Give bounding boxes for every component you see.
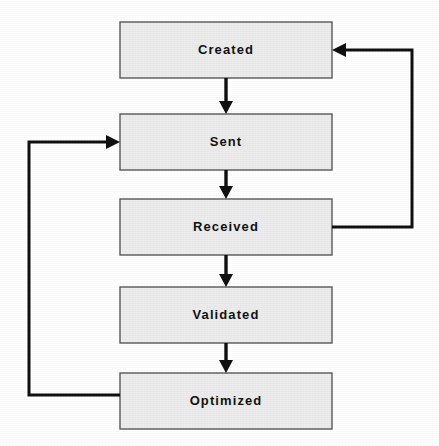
edge-received-to-validated-arrowhead — [219, 274, 233, 287]
edge-validated-to-optimized — [219, 343, 233, 373]
node-received[interactable]: Received — [120, 199, 332, 255]
node-created-label: Created — [198, 42, 254, 57]
edge-validated-to-optimized-arrowhead — [219, 360, 233, 373]
node-validated[interactable]: Validated — [120, 287, 332, 343]
flow-diagram-svg: Created Sent Received Validated Optimize… — [0, 0, 439, 446]
node-sent[interactable]: Sent — [120, 114, 332, 170]
node-optimized-label: Optimized — [190, 393, 263, 408]
node-validated-label: Validated — [193, 307, 260, 322]
edge-created-to-sent — [219, 78, 233, 114]
edge-created-to-sent-arrowhead — [219, 101, 233, 114]
edge-optimized-to-sent-line — [29, 142, 120, 395]
node-received-label: Received — [193, 219, 259, 234]
node-optimized[interactable]: Optimized — [120, 373, 332, 429]
edge-received-to-created-line — [332, 50, 412, 227]
flow-diagram-canvas: Created Sent Received Validated Optimize… — [0, 0, 439, 446]
node-sent-label: Sent — [210, 134, 243, 149]
edge-received-to-validated — [219, 255, 233, 287]
edge-received-to-created — [332, 43, 412, 227]
edge-received-to-created-arrowhead — [332, 43, 346, 57]
edge-sent-to-received-arrowhead — [219, 186, 233, 199]
edge-optimized-to-sent-arrowhead — [106, 135, 120, 149]
edge-optimized-to-sent — [29, 135, 120, 395]
node-created[interactable]: Created — [120, 22, 332, 78]
edge-sent-to-received — [219, 170, 233, 199]
